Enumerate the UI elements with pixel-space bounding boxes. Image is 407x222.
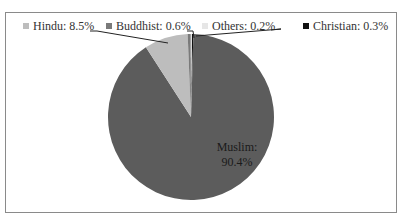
label-muslim-value: 90.4% bbox=[222, 155, 253, 169]
pie-slices bbox=[108, 34, 274, 200]
christian-marker-icon bbox=[303, 23, 309, 29]
label-buddhist: Buddhist: 0.6% bbox=[116, 19, 191, 33]
label-muslim-name: Muslim: bbox=[217, 140, 258, 154]
pie-chart: Hindu: 8.5% Buddhist: 0.6% Others: 0.2% … bbox=[0, 0, 407, 222]
hindu-marker-icon bbox=[23, 23, 29, 29]
label-hindu: Hindu: 8.5% bbox=[33, 19, 94, 33]
others-marker-icon bbox=[202, 23, 208, 29]
label-christian: Christian: 0.3% bbox=[313, 19, 388, 33]
label-others: Others: 0.2% bbox=[212, 19, 275, 33]
buddhist-marker-icon bbox=[106, 23, 112, 29]
